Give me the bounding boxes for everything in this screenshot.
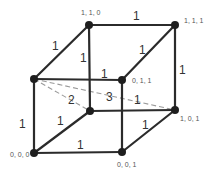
weight-label-b-c: 1 [133, 9, 140, 23]
coord-label-g: 0, 0, 0 [10, 151, 30, 158]
vertex-h [118, 148, 126, 156]
edge-c-d [122, 25, 175, 80]
weight-label-a-g: 1 [19, 117, 26, 131]
vertex-a [30, 75, 38, 83]
weight-label-a-e-dashed: 2 [68, 93, 75, 107]
coord-label-f: 1, 0, 1 [180, 115, 200, 122]
weight-label-h-f: 1 [142, 118, 149, 132]
vertex-d [118, 76, 126, 84]
weight-label-g-e: 1 [57, 114, 64, 128]
edge-e-f [90, 110, 175, 111]
edge-g-h [34, 152, 122, 153]
coord-label-d: 0, 1, 1 [132, 77, 152, 84]
weight-label-a-d: 1 [101, 67, 108, 81]
weight-label-b-e: 1 [80, 51, 87, 65]
coord-label-h: 0, 0, 1 [117, 161, 137, 168]
dashed-edge-a-e [34, 79, 90, 111]
weight-label-a-f-dashed-tail: 1 [134, 93, 141, 107]
weight-label-c-f: 1 [179, 63, 186, 77]
vertex-e [86, 107, 94, 115]
vertex-b [85, 21, 93, 29]
vertex-f [171, 106, 179, 114]
vertex-g [30, 149, 38, 157]
edge-b-e [89, 25, 90, 111]
cube-diagram: 1, 1, 0 1, 1, 1 0, 1, 1 1, 0, 1 0, 0, 0 … [0, 0, 214, 177]
dashed-edge-a-f [34, 79, 175, 110]
weight-label-g-h: 1 [77, 138, 84, 152]
weight-label-a-b: 1 [52, 39, 59, 53]
edge-a-d [34, 79, 122, 80]
weight-label-a-f-dashed: 3 [106, 90, 113, 104]
coord-label-b: 1, 1, 0 [81, 9, 101, 16]
weight-label-c-d: 1 [139, 43, 146, 57]
coord-label-c: 1, 1, 1 [184, 17, 204, 24]
vertex-c [171, 21, 179, 29]
